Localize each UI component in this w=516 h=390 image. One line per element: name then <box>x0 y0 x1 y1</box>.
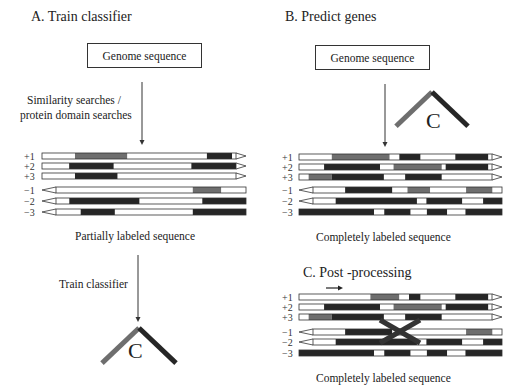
track-segment <box>313 329 345 335</box>
strand-arrow-right-icon <box>492 314 502 320</box>
track-segment <box>399 154 420 160</box>
frame-label: −3 <box>24 207 35 218</box>
strand-arrow-left-icon <box>299 198 313 204</box>
track-segment <box>483 339 502 345</box>
track-segment <box>380 164 394 170</box>
track-segment <box>191 163 236 169</box>
track-segment <box>430 329 466 335</box>
frame-label: +3 <box>24 171 35 182</box>
strand-arrow-right-icon <box>236 173 246 179</box>
track-segment <box>408 329 431 335</box>
track-segment <box>394 164 442 170</box>
frame-label: −1 <box>24 185 35 196</box>
track-segment <box>299 164 324 170</box>
track-segment <box>56 209 81 215</box>
track-segment <box>411 350 427 356</box>
track-segment <box>374 350 384 356</box>
track-segment <box>193 187 222 193</box>
track-segment <box>232 153 236 159</box>
track-segment <box>442 304 446 310</box>
track-segment <box>299 294 370 300</box>
track-segment <box>332 154 390 160</box>
strand-arrow-right-icon <box>492 174 502 180</box>
track-segment <box>202 198 246 204</box>
track-segment <box>332 174 384 180</box>
track-segment <box>465 350 502 356</box>
track-segment <box>380 304 394 310</box>
strand-arrow-left-icon <box>42 187 56 193</box>
track-segment <box>42 153 75 159</box>
track-segment <box>394 304 442 310</box>
track-segment <box>409 294 421 300</box>
track-segment <box>465 209 502 215</box>
track-segment <box>370 294 399 300</box>
panel-a-classifier-chevron-icon-left <box>102 328 139 363</box>
track-segment <box>193 209 246 215</box>
strand-arrow-right-icon <box>492 294 502 300</box>
track-segment <box>221 187 246 193</box>
track-segment <box>462 198 483 204</box>
track-segment <box>446 304 488 310</box>
track-segment <box>462 339 483 345</box>
track-segment <box>421 294 456 300</box>
track-segment <box>345 187 392 193</box>
track-segment <box>313 198 336 204</box>
strand-arrow-left-icon <box>42 198 56 204</box>
frame-label: −3 <box>282 348 293 359</box>
track-segment <box>427 209 447 215</box>
track-segment <box>336 339 417 345</box>
track-segment <box>493 329 502 335</box>
track-segment <box>426 198 462 204</box>
track-segment <box>446 164 488 170</box>
track-segment <box>374 209 384 215</box>
track-segment <box>115 209 193 215</box>
track-segment <box>430 187 466 193</box>
frame-label: +3 <box>282 312 293 323</box>
track-segment <box>324 304 380 310</box>
frame-label: −2 <box>282 337 293 348</box>
strand-arrow-right-icon <box>236 163 246 169</box>
strand-arrow-right-icon <box>236 153 246 159</box>
panel-c-arrow-right-head <box>338 286 343 291</box>
track-segment <box>384 314 405 320</box>
panel-a-train-arrow-down-icon-head <box>136 317 141 322</box>
track-segment <box>56 187 94 193</box>
track-segment <box>313 187 345 193</box>
track-segment <box>405 174 442 180</box>
track-segment <box>442 314 488 320</box>
strand-arrow-right-icon <box>492 304 502 310</box>
track-segment <box>69 198 139 204</box>
track-segment <box>411 209 427 215</box>
track-segment <box>455 154 488 160</box>
track-segment <box>390 154 400 160</box>
track-segment <box>127 153 207 159</box>
track-segment <box>466 329 492 335</box>
track-segment <box>94 187 193 193</box>
track-segment <box>299 314 309 320</box>
frame-label: −2 <box>24 196 35 207</box>
track-segment <box>442 164 446 170</box>
track-segment <box>455 294 488 300</box>
panel-b-arrow-down-icon-head <box>383 142 388 147</box>
track-segment <box>69 163 114 169</box>
panel-b-classifier-chevron-icon-left <box>396 92 432 126</box>
track-segment <box>42 173 75 179</box>
track-segment <box>332 314 384 320</box>
track-segment <box>447 350 465 356</box>
track-segment <box>299 350 374 356</box>
track-segment <box>466 187 492 193</box>
strand-arrow-left-icon <box>299 329 313 335</box>
track-segment <box>417 198 426 204</box>
strand-arrow-left-icon <box>299 339 313 345</box>
strand-arrow-left-icon <box>42 209 56 215</box>
track-segment <box>118 173 236 179</box>
track-segment <box>56 198 69 204</box>
track-segment <box>392 187 407 193</box>
track-segment <box>442 174 488 180</box>
track-segment <box>299 154 332 160</box>
track-segment <box>81 209 115 215</box>
track-segment <box>324 164 380 170</box>
strand-arrow-right-icon <box>492 154 502 160</box>
track-segment <box>299 174 309 180</box>
track-segment <box>384 174 405 180</box>
